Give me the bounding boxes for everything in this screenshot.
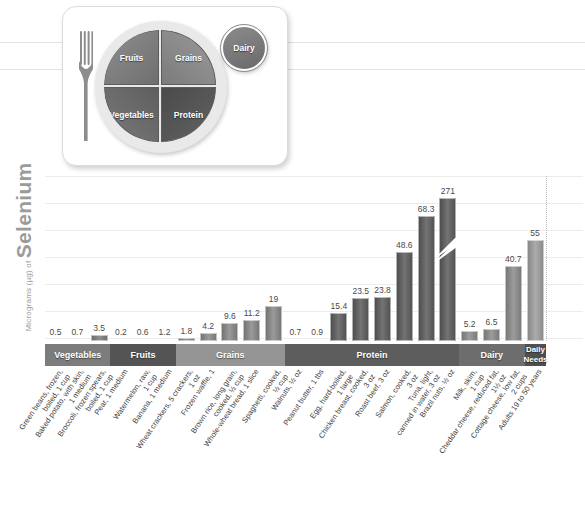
bar — [418, 216, 435, 342]
plate-label-grains: Grains — [175, 53, 202, 63]
chart-plot-area: 0.50.73.50.20.61.21.84.29.611.2190.70.91… — [45, 176, 583, 341]
bar — [352, 298, 369, 341]
category-band: VegetablesFruitsGrainsProteinDairyDailyN… — [45, 344, 585, 366]
category-dairy: Dairy — [459, 344, 524, 366]
daily-needs-divider — [546, 176, 547, 341]
gridline — [45, 284, 583, 285]
bar — [309, 339, 326, 341]
bar-value-label: 0.9 — [302, 327, 332, 337]
bar-value-label: 48.6 — [389, 240, 419, 250]
plate-quadrants: Fruits Grains Vegetables Protein — [104, 30, 218, 144]
plate-quadrant-fruits: Fruits — [104, 30, 159, 85]
bar — [112, 339, 129, 341]
bar-value-label: 68.3 — [411, 204, 441, 214]
bar — [483, 329, 500, 341]
gridline — [45, 176, 583, 177]
bar — [505, 266, 522, 341]
category-vegetables: Vegetables — [45, 344, 110, 366]
category-fruits: Fruits — [110, 344, 175, 366]
bar-value-label: 40.7 — [498, 254, 528, 264]
bar-value-label: 15.4 — [324, 301, 354, 311]
category-protein: Protein — [285, 344, 459, 366]
category-daily-needs: DailyNeeds — [525, 344, 547, 366]
myplate-graphic: Fruits Grains Vegetables Protein Dairy — [62, 6, 288, 166]
gridline — [45, 311, 583, 312]
bar-value-label: 271 — [433, 186, 463, 196]
gridline — [45, 230, 583, 231]
bar-value-label: 11.2 — [237, 308, 267, 318]
bar — [221, 323, 238, 341]
bar — [330, 313, 347, 341]
bar — [200, 333, 217, 341]
bar-value-label: 19 — [259, 294, 289, 304]
plate-quadrant-protein: Protein — [161, 87, 216, 142]
plate-dairy-cup: Dairy — [221, 25, 267, 71]
bar-value-label: 4.2 — [193, 321, 223, 331]
bar — [243, 320, 260, 341]
bar — [527, 240, 544, 341]
plate-label-protein: Protein — [174, 110, 203, 120]
bar — [47, 339, 64, 341]
y-axis-label: Micrograms (µg) of Selenium — [12, 97, 36, 397]
bar-value-label: 6.5 — [477, 317, 507, 327]
plate-label-dairy: Dairy — [233, 43, 254, 53]
bar — [461, 331, 478, 341]
bar — [374, 297, 391, 341]
plate-label-vegetables: Vegetables — [109, 110, 153, 120]
bar-value-label: 23.8 — [368, 285, 398, 295]
fork-icon — [79, 31, 93, 141]
y-axis-units: Micrograms (µg) of — [24, 258, 33, 331]
bar — [134, 339, 151, 341]
y-axis-nutrient: Selenium — [12, 162, 35, 258]
plate-label-fruits: Fruits — [120, 53, 144, 63]
plate-quadrant-grains: Grains — [161, 30, 216, 85]
category-grains: Grains — [176, 344, 285, 366]
plate-quadrant-vegetables: Vegetables — [104, 87, 159, 142]
bar — [156, 339, 173, 341]
x-axis-labels: Green beans, frozen,boiled, 1 cupBaked p… — [0, 366, 585, 511]
bar — [396, 252, 413, 341]
gridline — [45, 203, 583, 204]
bar — [178, 338, 195, 341]
bar — [287, 339, 304, 341]
bar — [69, 339, 86, 341]
